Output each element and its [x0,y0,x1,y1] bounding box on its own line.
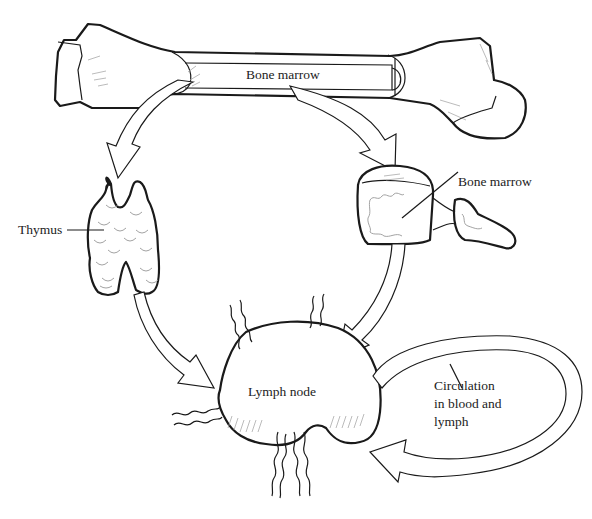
arrow-thymus-to-lymph-node [134,292,214,388]
label-circulation-2: in blood and [434,396,502,412]
label-lymph-node: Lymph node [248,384,316,400]
label-circulation-1: Circulation [434,378,495,394]
label-bone-marrow-femur: Bone marrow [246,67,320,83]
lymphocyte-diagram: Bone marrow Bone marrow Thymus Lymph nod… [0,0,592,519]
label-thymus: Thymus [18,222,62,238]
thymus-organ [67,178,159,295]
label-bone-marrow-vertebra: Bone marrow [458,174,532,190]
label-circulation-3: lymph [434,414,469,430]
